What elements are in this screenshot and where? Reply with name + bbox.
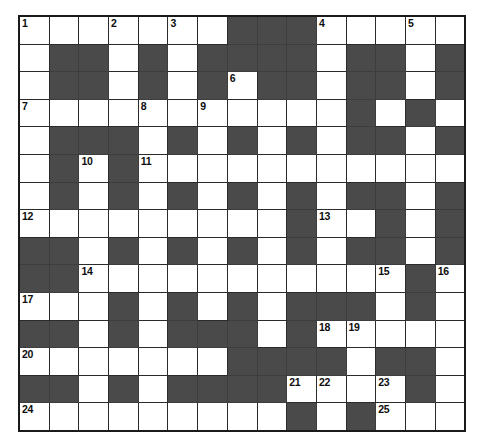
crossword-cell[interactable] [257, 99, 287, 127]
crossword-cell[interactable] [257, 403, 287, 431]
crossword-cell[interactable]: 3 [168, 16, 198, 44]
crossword-cell[interactable] [405, 72, 435, 100]
crossword-cell[interactable] [435, 154, 465, 182]
crossword-cell[interactable] [346, 348, 376, 376]
crossword-cell[interactable] [405, 237, 435, 265]
crossword-cell[interactable] [257, 127, 287, 155]
crossword-cell[interactable] [227, 99, 257, 127]
crossword-cell[interactable] [405, 210, 435, 238]
crossword-cell[interactable] [109, 44, 139, 72]
crossword-cell[interactable] [198, 348, 228, 376]
crossword-cell[interactable] [435, 403, 465, 431]
crossword-cell[interactable] [19, 127, 49, 155]
crossword-cell[interactable] [138, 182, 168, 210]
crossword-cell[interactable] [49, 16, 79, 44]
crossword-cell[interactable] [19, 182, 49, 210]
crossword-cell[interactable] [316, 154, 346, 182]
crossword-grid[interactable]: 1234567891011121314151617181920212223242… [18, 15, 466, 432]
crossword-cell[interactable] [257, 210, 287, 238]
crossword-cell[interactable] [138, 348, 168, 376]
crossword-cell[interactable] [227, 154, 257, 182]
crossword-cell[interactable] [198, 154, 228, 182]
crossword-cell[interactable]: 6 [227, 72, 257, 100]
crossword-cell[interactable] [19, 154, 49, 182]
crossword-cell[interactable] [198, 292, 228, 320]
crossword-cell[interactable]: 23 [376, 375, 406, 403]
crossword-cell[interactable] [168, 210, 198, 238]
crossword-cell[interactable] [138, 403, 168, 431]
crossword-cell[interactable] [405, 127, 435, 155]
crossword-cell[interactable] [79, 16, 109, 44]
crossword-cell[interactable] [49, 210, 79, 238]
crossword-cell[interactable] [79, 375, 109, 403]
crossword-cell[interactable]: 13 [316, 210, 346, 238]
crossword-cell[interactable]: 9 [198, 99, 228, 127]
crossword-cell[interactable] [435, 99, 465, 127]
crossword-cell[interactable] [257, 292, 287, 320]
crossword-cell[interactable] [138, 375, 168, 403]
crossword-cell[interactable] [168, 72, 198, 100]
crossword-cell[interactable] [287, 265, 317, 293]
crossword-cell[interactable] [198, 237, 228, 265]
crossword-cell[interactable] [316, 237, 346, 265]
crossword-cell[interactable] [138, 265, 168, 293]
crossword-cell[interactable] [257, 237, 287, 265]
crossword-cell[interactable] [316, 182, 346, 210]
crossword-cell[interactable] [19, 44, 49, 72]
crossword-cell[interactable]: 8 [138, 99, 168, 127]
crossword-cell[interactable]: 24 [19, 403, 49, 431]
crossword-cell[interactable] [109, 210, 139, 238]
crossword-cell[interactable] [168, 403, 198, 431]
crossword-cell[interactable] [376, 292, 406, 320]
crossword-cell[interactable] [138, 127, 168, 155]
crossword-cell[interactable] [316, 44, 346, 72]
crossword-cell[interactable] [138, 16, 168, 44]
crossword-cell[interactable]: 21 [287, 375, 317, 403]
crossword-cell[interactable] [79, 348, 109, 376]
crossword-cell[interactable]: 7 [19, 99, 49, 127]
crossword-cell[interactable] [79, 99, 109, 127]
crossword-cell[interactable]: 4 [316, 16, 346, 44]
crossword-cell[interactable] [287, 154, 317, 182]
crossword-cell[interactable] [109, 72, 139, 100]
crossword-cell[interactable] [168, 154, 198, 182]
crossword-cell[interactable] [257, 265, 287, 293]
crossword-cell[interactable] [138, 320, 168, 348]
crossword-cell[interactable]: 16 [435, 265, 465, 293]
crossword-cell[interactable] [257, 154, 287, 182]
crossword-cell[interactable] [198, 16, 228, 44]
crossword-cell[interactable] [198, 182, 228, 210]
crossword-cell[interactable] [168, 265, 198, 293]
crossword-cell[interactable] [316, 72, 346, 100]
crossword-cell[interactable]: 15 [376, 265, 406, 293]
crossword-cell[interactable]: 25 [376, 403, 406, 431]
crossword-cell[interactable]: 11 [138, 154, 168, 182]
crossword-cell[interactable] [79, 403, 109, 431]
crossword-cell[interactable] [109, 265, 139, 293]
crossword-cell[interactable] [435, 348, 465, 376]
crossword-cell[interactable] [257, 182, 287, 210]
crossword-cell[interactable]: 18 [316, 320, 346, 348]
crossword-cell[interactable] [227, 210, 257, 238]
crossword-cell[interactable] [49, 403, 79, 431]
crossword-cell[interactable]: 1 [19, 16, 49, 44]
crossword-cell[interactable]: 20 [19, 348, 49, 376]
crossword-cell[interactable] [346, 265, 376, 293]
crossword-cell[interactable] [376, 99, 406, 127]
crossword-cell[interactable]: 14 [79, 265, 109, 293]
crossword-cell[interactable] [346, 375, 376, 403]
crossword-cell[interactable] [405, 44, 435, 72]
crossword-cell[interactable] [138, 210, 168, 238]
crossword-cell[interactable] [198, 210, 228, 238]
crossword-cell[interactable] [79, 182, 109, 210]
crossword-cell[interactable] [19, 72, 49, 100]
crossword-cell[interactable] [49, 292, 79, 320]
crossword-cell[interactable] [168, 348, 198, 376]
crossword-cell[interactable]: 22 [316, 375, 346, 403]
crossword-cell[interactable] [435, 375, 465, 403]
crossword-cell[interactable] [316, 99, 346, 127]
crossword-cell[interactable]: 2 [109, 16, 139, 44]
crossword-cell[interactable] [346, 210, 376, 238]
crossword-cell[interactable] [109, 348, 139, 376]
crossword-cell[interactable] [257, 320, 287, 348]
